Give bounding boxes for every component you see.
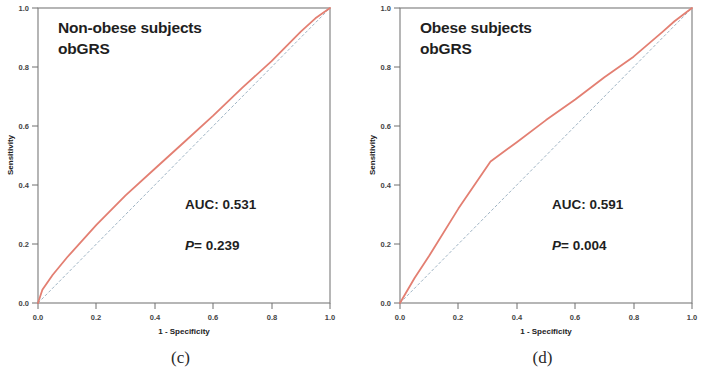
roc-chart-c: 0.0 0.2 0.4 0.6 0.8 1.0 0.0 0.2 0.4 0. bbox=[0, 0, 361, 340]
panel-title-line2: obGRS bbox=[420, 40, 472, 57]
x-axis-title: 1 - Specificity bbox=[158, 327, 210, 336]
y-axis-ticks bbox=[394, 8, 400, 303]
y-tick-label: 0.0 bbox=[19, 299, 29, 308]
panel-c: 0.0 0.2 0.4 0.6 0.8 1.0 0.0 0.2 0.4 0. bbox=[0, 0, 361, 370]
x-axis-tick-labels: 0.0 0.2 0.4 0.6 0.8 1.0 bbox=[33, 313, 335, 322]
x-tick-label: 0.0 bbox=[33, 313, 43, 322]
p-value-number: = 0.239 bbox=[194, 238, 239, 253]
x-tick-label: 0.2 bbox=[453, 313, 463, 322]
y-tick-label: 0.8 bbox=[19, 63, 29, 72]
y-tick-label: 0.6 bbox=[19, 122, 29, 131]
y-tick-label: 0.2 bbox=[19, 240, 29, 249]
panel-title-line1: Non-obese subjects bbox=[58, 19, 202, 36]
x-tick-label: 0.0 bbox=[395, 313, 405, 322]
y-tick-label: 0.0 bbox=[381, 299, 391, 308]
x-tick-label: 1.0 bbox=[687, 313, 697, 322]
panel-title-line2: obGRS bbox=[58, 40, 110, 57]
x-tick-label: 0.4 bbox=[150, 313, 161, 322]
x-tick-label: 0.8 bbox=[629, 313, 639, 322]
x-tick-label: 0.6 bbox=[208, 313, 218, 322]
panel-caption-c: (c) bbox=[0, 348, 361, 368]
y-tick-label: 0.4 bbox=[381, 181, 392, 190]
roc-chart-d: 0.0 0.2 0.4 0.6 0.8 1.0 0.0 0.2 0.4 0.6 bbox=[362, 0, 723, 340]
x-tick-label: 1.0 bbox=[325, 313, 335, 322]
roc-figure: 0.0 0.2 0.4 0.6 0.8 1.0 0.0 0.2 0.4 0. bbox=[0, 0, 723, 370]
x-axis-ticks bbox=[400, 303, 692, 309]
y-tick-label: 1.0 bbox=[381, 4, 391, 13]
p-value-annotation: P = 0.239 bbox=[185, 238, 239, 253]
auc-annotation: AUC: 0.591 bbox=[552, 197, 624, 212]
y-tick-label: 1.0 bbox=[19, 4, 29, 13]
y-tick-label: 0.4 bbox=[19, 181, 30, 190]
x-tick-label: 0.2 bbox=[91, 313, 101, 322]
auc-annotation: AUC: 0.531 bbox=[185, 197, 257, 212]
panel-caption-d: (d) bbox=[362, 348, 723, 368]
y-axis-tick-labels: 0.0 0.2 0.4 0.6 0.8 1.0 bbox=[19, 4, 30, 308]
panel-d: 0.0 0.2 0.4 0.6 0.8 1.0 0.0 0.2 0.4 0.6 bbox=[362, 0, 723, 370]
x-tick-label: 0.6 bbox=[570, 313, 580, 322]
panel-title-line1: Obese subjects bbox=[420, 19, 532, 36]
x-axis-tick-labels: 0.0 0.2 0.4 0.6 0.8 1.0 bbox=[395, 313, 697, 322]
x-tick-label: 0.8 bbox=[267, 313, 277, 322]
y-axis-title: Sensitivity bbox=[6, 134, 15, 175]
y-axis-tick-labels: 0.0 0.2 0.4 0.6 0.8 1.0 bbox=[381, 4, 392, 308]
y-tick-label: 0.2 bbox=[381, 240, 391, 249]
x-tick-label: 0.4 bbox=[512, 313, 523, 322]
y-axis-title: Sensitivity bbox=[368, 134, 377, 175]
p-value-number: = 0.004 bbox=[561, 238, 607, 253]
x-axis-title: 1 - Specificity bbox=[520, 327, 572, 336]
y-tick-label: 0.6 bbox=[381, 122, 391, 131]
y-axis-ticks bbox=[32, 8, 38, 303]
p-value-annotation: P = 0.004 bbox=[552, 238, 607, 253]
y-tick-label: 0.8 bbox=[381, 63, 391, 72]
x-axis-ticks bbox=[38, 303, 330, 309]
